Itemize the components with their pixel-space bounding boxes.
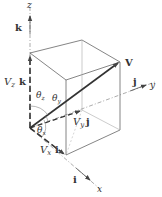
component-vectors <box>30 56 80 154</box>
v-label: V <box>124 57 133 68</box>
svg-text:k: k <box>19 76 27 87</box>
svg-text:Vy: Vy <box>73 116 85 129</box>
vz-k-label: Vz k <box>4 76 27 89</box>
x-axis <box>30 128 100 189</box>
theta-y-arc <box>46 116 48 122</box>
y-axis-label: y <box>149 80 156 90</box>
theta-z-arc <box>30 106 48 115</box>
svg-text:j: j <box>85 116 90 127</box>
theta-x-label: θx <box>37 125 46 136</box>
svg-text:Vx: Vx <box>40 144 51 157</box>
theta-z-label: θz <box>36 90 45 101</box>
i-unit-arrow <box>76 168 90 180</box>
svg-text:i: i <box>55 144 59 155</box>
z-axis-label: z <box>26 0 32 10</box>
vector-components-diagram: z k V j y i x Vz k Vy j Vx i θz θy θx <box>0 0 162 197</box>
j-label: j <box>132 76 137 87</box>
k-label: k <box>15 22 23 33</box>
theta-y-label: θy <box>52 93 61 105</box>
vx-i-label: Vx i <box>40 144 59 157</box>
x-axis-label: x <box>97 184 102 194</box>
vy-j-label: Vy j <box>73 116 90 129</box>
i-label: i <box>73 174 77 185</box>
svg-text:Vz: Vz <box>4 76 15 89</box>
